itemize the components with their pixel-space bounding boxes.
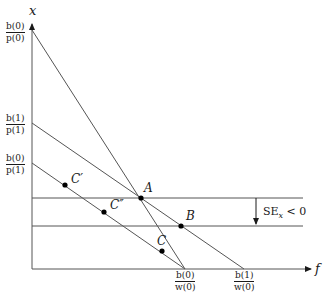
point-A xyxy=(138,195,143,200)
diagram-canvas xyxy=(0,0,330,295)
x-axis-label: f xyxy=(315,262,320,275)
point-C xyxy=(159,248,164,253)
y-label-b0-p0: b(0) p(0) xyxy=(6,22,25,44)
se-relation: < 0 xyxy=(287,205,307,218)
x-label-b0-w0: b(0) w(0) xyxy=(175,271,195,293)
fraction-numerator: b(1) xyxy=(6,114,25,123)
fraction-numerator: b(0) xyxy=(176,271,195,280)
point-C-prime xyxy=(62,182,67,187)
x-label-b1-w0: b(1) w(0) xyxy=(234,271,254,293)
label-C-prime: C′ xyxy=(71,173,83,185)
label-C: C xyxy=(157,235,166,247)
point-C-double-prime xyxy=(101,209,106,214)
se-text: SE xyxy=(263,205,279,218)
se-subscript: x xyxy=(279,211,284,220)
label-C-double-prime: C″ xyxy=(110,199,124,211)
fraction-numerator: b(0) xyxy=(6,22,25,31)
fraction-numerator: b(1) xyxy=(235,271,254,280)
fraction-denominator: p(1) xyxy=(6,126,25,135)
fraction-numerator: b(0) xyxy=(6,154,25,163)
label-B: B xyxy=(186,210,195,222)
y-label-b0-p1: b(0) p(1) xyxy=(6,154,25,176)
fraction-denominator: p(0) xyxy=(6,34,25,43)
point-B xyxy=(178,223,183,228)
fraction-denominator: w(0) xyxy=(175,283,195,292)
se-annotation: SEx < 0 xyxy=(263,206,306,220)
budget-line-b1p1 xyxy=(32,123,244,269)
substitution-effect-diagram: x f b(0) p(0) b(1) p(1) b(0) p(1) b(0) w… xyxy=(0,0,330,295)
fraction-denominator: p(1) xyxy=(6,166,25,175)
fraction-denominator: w(0) xyxy=(234,283,254,292)
label-A: A xyxy=(144,182,153,194)
y-axis-label: x xyxy=(29,4,36,17)
y-label-b1-p1: b(1) p(1) xyxy=(6,114,25,136)
